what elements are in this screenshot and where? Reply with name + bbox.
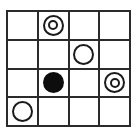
- cell-r1c4[interactable]: [100, 12, 131, 41]
- cell-r1c2[interactable]: [39, 12, 70, 41]
- cell-r2c3[interactable]: [70, 41, 101, 70]
- cell-r4c1[interactable]: [8, 98, 39, 127]
- cell-r2c4[interactable]: [100, 41, 131, 70]
- cell-r2c1[interactable]: [8, 41, 39, 70]
- circle-icon: [12, 101, 33, 122]
- cell-r2c2[interactable]: [39, 41, 70, 70]
- cell-r3c4[interactable]: [100, 70, 131, 99]
- puzzle-root: [0, 0, 139, 133]
- filled-circle-icon: [43, 72, 64, 93]
- cell-r4c2[interactable]: [39, 98, 70, 127]
- cell-r3c2[interactable]: [39, 70, 70, 99]
- cell-r1c1[interactable]: [8, 12, 39, 41]
- double-circle-icon: [43, 15, 64, 36]
- grid-board: [6, 10, 131, 127]
- cell-r1c3[interactable]: [70, 12, 101, 41]
- cell-r4c4[interactable]: [100, 98, 131, 127]
- cell-r3c3[interactable]: [70, 70, 101, 99]
- double-circle-icon: [104, 72, 125, 93]
- cell-r4c3[interactable]: [70, 98, 101, 127]
- circle-icon: [73, 44, 94, 65]
- cell-r3c1[interactable]: [8, 70, 39, 99]
